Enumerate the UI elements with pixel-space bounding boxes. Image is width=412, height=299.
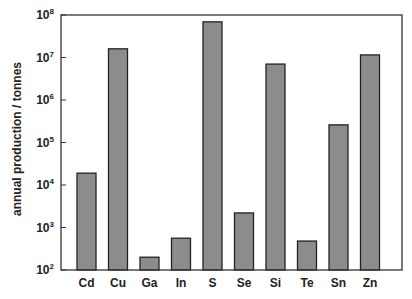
bar-se xyxy=(235,213,254,270)
bar-si xyxy=(266,64,285,270)
x-tick-label: Te xyxy=(291,276,323,290)
y-tick-label: 106 xyxy=(24,92,54,107)
y-tick-label: 103 xyxy=(24,220,54,235)
bar-chart-plot xyxy=(0,0,412,299)
bar-zn xyxy=(361,55,380,270)
y-tick-label: 107 xyxy=(24,50,54,65)
y-tick-label: 105 xyxy=(24,135,54,150)
x-tick-label: Ga xyxy=(134,276,166,290)
y-tick-label: 108 xyxy=(24,7,54,22)
y-tick-label: 102 xyxy=(24,262,54,277)
x-tick-label: Cu xyxy=(102,276,134,290)
bar-s xyxy=(203,22,222,270)
x-tick-label: Cd xyxy=(71,276,103,290)
bar-in xyxy=(172,238,191,270)
x-tick-label: Si xyxy=(260,276,292,290)
bar-sn xyxy=(329,125,348,270)
x-tick-label: Sn xyxy=(323,276,355,290)
x-tick-label: S xyxy=(197,276,229,290)
bar-ga xyxy=(140,257,159,270)
x-tick-label: Zn xyxy=(354,276,386,290)
x-tick-label: Se xyxy=(228,276,260,290)
bar-cd xyxy=(77,173,96,270)
bar-cu xyxy=(109,49,128,270)
bar-te xyxy=(298,241,317,270)
x-tick-label: In xyxy=(165,276,197,290)
y-tick-label: 104 xyxy=(24,177,54,192)
